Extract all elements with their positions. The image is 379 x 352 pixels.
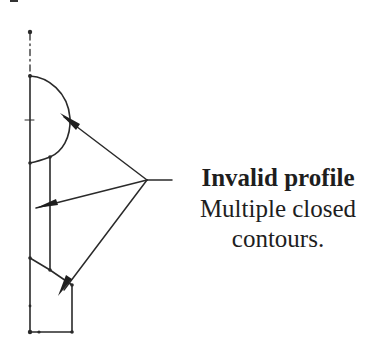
arrowhead-icon — [36, 199, 58, 208]
arrowhead-icons — [36, 113, 80, 296]
profile-arc-contour — [30, 76, 70, 163]
arrowhead-icon — [58, 275, 72, 296]
centerline — [28, 30, 32, 75]
callout-description-line2: contours. — [176, 224, 379, 254]
callout-description-line1: Multiple closed — [176, 194, 379, 224]
callout-title: Invalid profile — [178, 163, 378, 193]
